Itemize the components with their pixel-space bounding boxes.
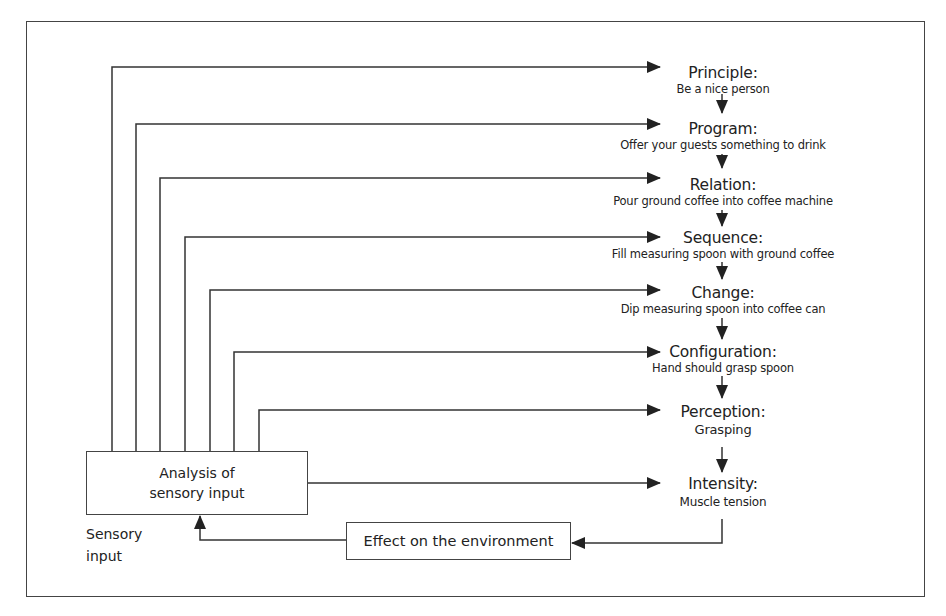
level-desc: Hand should grasp spoon — [573, 361, 873, 375]
level-sequence: Sequence: Fill measuring spoon with grou… — [573, 229, 873, 261]
level-relation: Relation: Pour ground coffee into coffee… — [573, 176, 873, 208]
level-title: Intensity: — [573, 475, 873, 493]
level-change: Change: Dip measuring spoon into coffee … — [573, 284, 873, 316]
level-configuration: Configuration: Hand should grasp spoon — [573, 343, 873, 375]
level-desc: Fill measuring spoon with ground coffee — [573, 247, 873, 261]
level-title: Perception: — [573, 403, 873, 421]
level-desc: Grasping — [573, 421, 873, 439]
analysis-line2: sensory input — [149, 483, 244, 503]
level-program: Program: Offer your guests something to … — [573, 120, 873, 152]
level-title: Program: — [573, 120, 873, 138]
effect-label: Effect on the environment — [364, 533, 554, 549]
level-title: Relation: — [573, 176, 873, 194]
sensory-input-label: Sensory input — [86, 523, 142, 567]
analysis-line1: Analysis of — [149, 463, 244, 483]
level-title: Sequence: — [573, 229, 873, 247]
level-title: Change: — [573, 284, 873, 302]
level-desc: Dip measuring spoon into coffee can — [573, 302, 873, 316]
sensory-line2: input — [86, 545, 142, 567]
level-principle: Principle: Be a nice person — [573, 64, 873, 96]
level-desc: Muscle tension — [573, 493, 873, 511]
level-intensity: Intensity: Muscle tension — [573, 475, 873, 511]
level-perception: Perception: Grasping — [573, 403, 873, 439]
effect-box: Effect on the environment — [346, 522, 571, 560]
level-desc: Offer your guests something to drink — [573, 138, 873, 152]
sensory-line1: Sensory — [86, 523, 142, 545]
level-title: Configuration: — [573, 343, 873, 361]
level-desc: Be a nice person — [573, 82, 873, 96]
level-title: Principle: — [573, 64, 873, 82]
level-desc: Pour ground coffee into coffee machine — [573, 194, 873, 208]
analysis-box: Analysis of sensory input — [86, 451, 308, 515]
